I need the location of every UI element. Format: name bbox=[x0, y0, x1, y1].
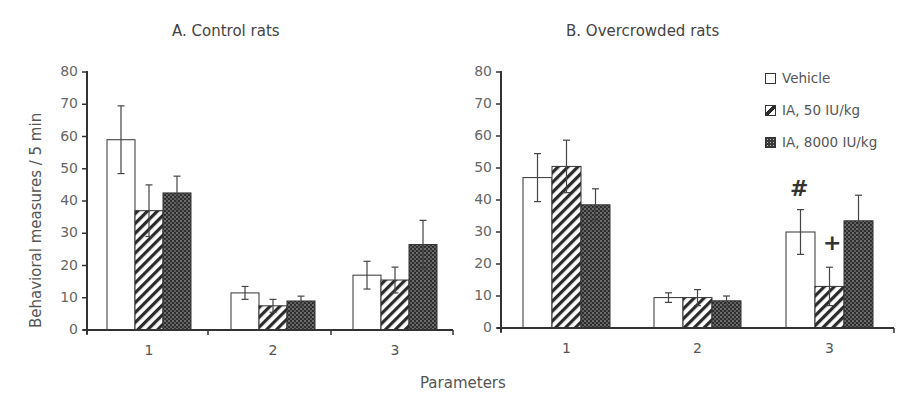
y-tick-label: 30 bbox=[464, 223, 492, 239]
x-tick-label: 1 bbox=[139, 342, 159, 358]
legend-swatch-hatch bbox=[765, 105, 776, 116]
x-tick-label: 1 bbox=[557, 340, 577, 356]
y-tick-label: 80 bbox=[50, 63, 78, 79]
legend-swatch-white bbox=[765, 73, 776, 84]
x-tick-label: 3 bbox=[385, 342, 405, 358]
y-axis-label: Behavioral measures / 5 min bbox=[27, 113, 45, 328]
legend-item-ia-8000: IA, 8000 IU/kg bbox=[765, 134, 877, 150]
y-tick-label: 10 bbox=[50, 289, 78, 305]
legend-item-ia-50: IA, 50 IU/kg bbox=[765, 102, 860, 118]
x-tick-label: 2 bbox=[688, 340, 708, 356]
legend-item-vehicle: Vehicle bbox=[765, 70, 830, 86]
bar-ia-8000-iu-kg-param-1 bbox=[581, 205, 610, 328]
figure: A. Control rats B. Overcrowded rats Beha… bbox=[0, 0, 921, 414]
y-tick-label: 70 bbox=[464, 95, 492, 111]
annotation-plus: + bbox=[823, 230, 841, 255]
y-tick-label: 40 bbox=[464, 191, 492, 207]
y-tick-label: 50 bbox=[50, 160, 78, 176]
x-axis-label: Parameters bbox=[420, 374, 506, 392]
annotation-hash: # bbox=[790, 176, 808, 201]
legend-label: Vehicle bbox=[782, 70, 830, 86]
legend-label: IA, 50 IU/kg bbox=[782, 102, 860, 118]
y-tick-label: 80 bbox=[464, 63, 492, 79]
panel-b-title: B. Overcrowded rats bbox=[566, 22, 719, 40]
y-tick-label: 20 bbox=[464, 255, 492, 271]
y-tick-label: 20 bbox=[50, 257, 78, 273]
legend-swatch-dots bbox=[765, 137, 776, 148]
bar-ia-8000-iu-kg-param-1 bbox=[163, 193, 191, 330]
panel-a-plot bbox=[82, 71, 453, 335]
x-tick-label: 3 bbox=[820, 340, 840, 356]
y-tick-label: 50 bbox=[464, 159, 492, 175]
y-tick-label: 0 bbox=[464, 319, 492, 335]
x-tick-label: 2 bbox=[263, 342, 283, 358]
y-tick-label: 60 bbox=[464, 127, 492, 143]
legend-label: IA, 8000 IU/kg bbox=[782, 134, 877, 150]
y-tick-label: 10 bbox=[464, 287, 492, 303]
y-tick-label: 60 bbox=[50, 128, 78, 144]
y-tick-label: 0 bbox=[50, 321, 78, 337]
panel-a-title: A. Control rats bbox=[172, 22, 280, 40]
y-tick-label: 70 bbox=[50, 95, 78, 111]
y-tick-label: 30 bbox=[50, 224, 78, 240]
y-tick-label: 40 bbox=[50, 192, 78, 208]
